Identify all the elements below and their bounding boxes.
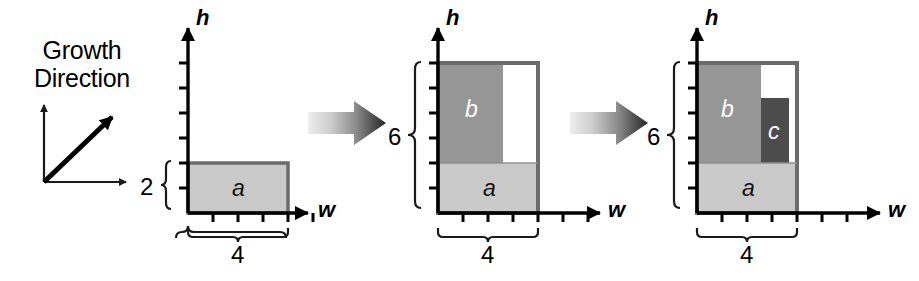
- panel-1-h-axis-label: h: [196, 6, 209, 31]
- panel-3-w-axis-label: w: [888, 198, 905, 223]
- growth-direction-line1: Growth: [12, 36, 152, 64]
- h-axis-ticks: [429, 63, 438, 188]
- panel-2-region-b-label: b: [465, 97, 478, 123]
- panel-2-w-axis-label: w: [608, 198, 625, 223]
- panel-2-h-axis-label: h: [446, 6, 459, 31]
- panel-3-axes: [688, 28, 880, 222]
- region-b-empty-shape: [438, 63, 538, 163]
- panel-2-axes: [429, 28, 600, 222]
- height-brace-6: [667, 62, 680, 208]
- height-brace-6: [408, 62, 421, 208]
- width-brace-4: [697, 228, 797, 242]
- w-axis-ticks: [213, 213, 313, 222]
- growth-direction-label: Growth Direction: [12, 36, 152, 92]
- panel-1-axes: [179, 28, 313, 222]
- panel-1-region-a-label: a: [232, 176, 245, 202]
- w-axis-ticks: [463, 213, 588, 222]
- panel-3-region-a-label: a: [742, 176, 755, 202]
- panel-3-h-axis-label: h: [705, 6, 718, 31]
- h-axis-ticks: [688, 63, 697, 188]
- height-brace-2: [161, 161, 171, 209]
- panel-2-region-a-label: a: [483, 176, 496, 202]
- figure-canvas: Growth Direction: [0, 0, 919, 281]
- region-b-empty-shape: [697, 63, 797, 163]
- width-brace-4: [176, 226, 286, 238]
- arrow-1-2: [308, 101, 386, 145]
- panel-2: [408, 28, 600, 242]
- w-axis-ticks: [722, 213, 847, 222]
- arrow-2-3: [570, 101, 648, 145]
- panel-1-w-axis-label: w: [318, 198, 335, 223]
- panel-1-width-dimension: 4: [231, 242, 244, 269]
- h-axis-ticks: [179, 63, 188, 188]
- panel-2-width-dimension: 4: [481, 242, 494, 269]
- panel-3-region-c-label: c: [768, 119, 780, 145]
- width-brace-4-body: [188, 228, 288, 242]
- panel-3-width-dimension: 4: [740, 242, 753, 269]
- panel-3-height-dimension: 6: [647, 124, 660, 151]
- growth-direction-line2: Direction: [12, 64, 152, 92]
- width-brace-4: [438, 228, 538, 242]
- growth-direction-axes: [44, 105, 126, 182]
- panel-2-height-dimension: 6: [388, 124, 401, 151]
- panel-1: [161, 28, 313, 242]
- panel-3-region-b-label: b: [721, 97, 734, 123]
- panel-1-height-dimension: 2: [140, 174, 153, 201]
